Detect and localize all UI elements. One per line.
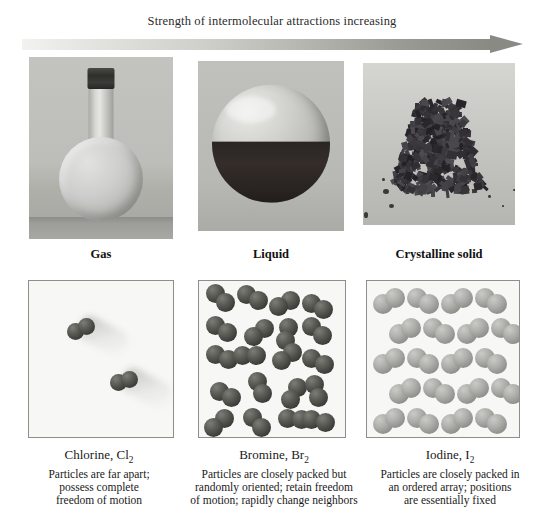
subscript: 2 (129, 455, 134, 465)
caption-line: an ordered array; positions (358, 481, 542, 494)
atom (453, 408, 473, 428)
flask-stopper (88, 68, 115, 89)
atom (314, 300, 333, 319)
atom (487, 414, 507, 434)
caption-line: Particles are closely packed but (176, 468, 372, 481)
atom (419, 354, 439, 374)
subscript: 2 (470, 455, 475, 465)
atom (503, 324, 520, 344)
atom (281, 390, 300, 409)
photo-liquid-bromine (198, 61, 344, 231)
atom (316, 413, 335, 432)
caption-line: Particles are closely packed in (358, 468, 542, 481)
molecular-diagram-liquid (198, 280, 346, 438)
atom (249, 291, 268, 310)
atom (469, 378, 489, 398)
atom (218, 323, 237, 342)
atom (313, 326, 332, 345)
crystal-fragment (447, 150, 458, 159)
state-label-gas: Gas (29, 247, 173, 262)
atom (419, 414, 439, 434)
caption-solid: Iodine, I2 Particles are closely packed … (358, 448, 542, 507)
arrow-head (490, 35, 523, 53)
atom (222, 388, 241, 407)
atom (453, 288, 473, 308)
crystal-fragment (415, 118, 421, 125)
photo-row (0, 57, 544, 243)
subscript: 2 (304, 455, 309, 465)
atom (487, 294, 507, 314)
page-title: Strength of intermolecular attractions i… (0, 14, 544, 29)
state-label-solid: Crystalline solid (363, 247, 515, 262)
atom (247, 346, 266, 365)
caption-line: freedom of motion (4, 494, 194, 507)
crystal-fragment (389, 204, 394, 208)
caption-line: possess complete (4, 481, 194, 494)
atom (385, 408, 405, 428)
atom (453, 348, 473, 368)
crystal-fragment (460, 186, 469, 195)
atom (385, 288, 405, 308)
atom (253, 384, 272, 403)
atom (401, 378, 421, 398)
atom (419, 294, 439, 314)
caption-line: Particles are far apart; (4, 468, 194, 481)
crystal-fragment (488, 195, 491, 198)
atom (269, 297, 288, 316)
caption-line: are essentially fixed (358, 494, 542, 507)
caption-substance-liquid: Bromine, Br2 (176, 448, 372, 467)
header: Strength of intermolecular attractions i… (0, 0, 544, 56)
atom (401, 318, 421, 338)
molecular-diagram-solid (366, 280, 520, 438)
spherical-flask (212, 85, 330, 203)
arrow-shaft (22, 39, 492, 50)
caption-substance-solid: Iodine, I2 (358, 448, 542, 467)
atom (252, 418, 271, 437)
atom (315, 355, 334, 374)
atom (435, 384, 455, 404)
atom (272, 351, 291, 370)
photo-solid-iodine (363, 63, 515, 225)
crystal-fragment (513, 189, 515, 192)
atom (469, 318, 489, 338)
molecular-diagram-gas (28, 280, 174, 438)
atom (309, 388, 328, 407)
gradient-arrow-right-icon (22, 35, 524, 53)
atom (244, 327, 263, 346)
caption-line: randomly oriented; retain freedom (176, 481, 372, 494)
atom (121, 371, 138, 388)
caption-line: of motion; rapidly change neighbors (176, 494, 372, 507)
state-label-liquid: Liquid (198, 247, 344, 262)
caption-substance-gas: Chlorine, Cl2 (4, 448, 194, 467)
crystal-fragment (382, 178, 385, 181)
atom (204, 418, 223, 437)
caption-gas: Chlorine, Cl2 Particles are far apart; p… (4, 448, 194, 507)
atom (216, 293, 235, 312)
liquid-fill (212, 141, 330, 202)
glass-highlight (226, 96, 276, 122)
atom (503, 384, 520, 404)
caption-liquid: Bromine, Br2 Particles are closely packe… (176, 448, 372, 507)
crystal-fragment (398, 154, 407, 162)
crystal-fragment (416, 129, 423, 134)
atom (435, 324, 455, 344)
photo-gas-flask (29, 57, 173, 239)
crystal-fragment (399, 169, 405, 174)
atom (487, 354, 507, 374)
flask-bulb (59, 137, 143, 221)
atom (385, 348, 405, 368)
